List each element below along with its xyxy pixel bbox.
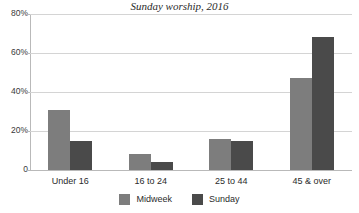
legend-label: Midweek — [136, 194, 172, 205]
bar-sunday-1 — [151, 162, 173, 170]
x-axis-category-label: 25 to 44 — [191, 176, 272, 187]
legend-swatch-icon — [119, 194, 130, 205]
plot-area — [30, 14, 352, 170]
bar-midweek-0 — [48, 110, 70, 170]
legend-label: Sunday — [209, 194, 240, 205]
legend-item-midweek[interactable]: Midweek — [119, 194, 172, 205]
legend-item-sunday[interactable]: Sunday — [192, 194, 240, 205]
bar-sunday-3 — [312, 37, 334, 170]
legend-swatch-icon — [192, 194, 203, 205]
x-axis-category-label: 16 to 24 — [111, 176, 192, 187]
chart-legend: MidweekSunday — [0, 194, 359, 205]
y-axis-tick-label: 20% — [2, 126, 28, 135]
bar-midweek-1 — [129, 154, 151, 170]
x-axis-category-label: 45 & over — [272, 176, 353, 187]
y-axis-tick-label: 0 — [2, 165, 28, 174]
chart-title: Sunday worship, 2016 — [0, 0, 359, 13]
x-axis-category-label: Under 16 — [30, 176, 111, 187]
gridline — [30, 14, 352, 15]
bar-sunday-2 — [231, 141, 253, 170]
bar-sunday-0 — [70, 141, 92, 170]
y-axis-tick-label: 60% — [2, 48, 28, 57]
gridline — [30, 53, 352, 54]
chart-container: Sunday worship, 2016 020%40%60%80% Midwe… — [0, 0, 359, 213]
bar-midweek-3 — [290, 78, 312, 170]
bar-midweek-2 — [209, 139, 231, 170]
y-axis-tick-label: 40% — [2, 87, 28, 96]
y-axis-tick-label: 80% — [2, 9, 28, 18]
x-axis-line — [30, 170, 352, 171]
y-axis-tick-labels: 020%40%60%80% — [0, 0, 28, 213]
